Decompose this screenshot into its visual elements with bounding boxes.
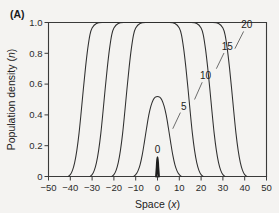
x-tick-label: 30 (218, 182, 229, 193)
population-density-chart: 00.20.40.60.81.0−50−40−30−20−10010203040… (0, 0, 279, 213)
curve-label-20: 20 (241, 19, 253, 30)
curve-label-leader (235, 31, 244, 48)
curve-label-leader (216, 53, 224, 69)
x-tick-label: −50 (40, 182, 56, 193)
curve-label-0: 0 (155, 144, 161, 155)
curve-label-15: 15 (222, 41, 234, 52)
x-tick-label: −40 (62, 182, 78, 193)
x-tick-label: 40 (239, 182, 250, 193)
y-tick-label: 0 (37, 171, 42, 182)
y-axis-title: Population density (n) (5, 49, 17, 151)
x-axis-title: Space (x) (135, 198, 180, 210)
x-tick-label: −10 (128, 182, 144, 193)
curve-label-leader (195, 82, 203, 99)
x-tick-label: −20 (106, 182, 122, 193)
y-tick-label: 0.4 (29, 109, 42, 120)
figure-panel-a: 00.20.40.60.81.0−50−40−30−20−10010203040… (0, 0, 279, 213)
y-tick-label: 0.8 (29, 48, 42, 59)
y-tick-label: 0.6 (29, 78, 42, 89)
x-tick-label: 20 (196, 182, 207, 193)
curve-t0 (156, 157, 159, 176)
curve-label-10: 10 (200, 70, 212, 81)
x-tick-label: 0 (155, 182, 160, 193)
x-tick-label: 50 (261, 182, 272, 193)
panel-label: (A) (10, 8, 25, 20)
curve-label-5: 5 (181, 101, 187, 112)
curve-label-leader (173, 113, 181, 129)
y-tick-label: 1.0 (29, 17, 42, 28)
y-tick-label: 0.2 (29, 140, 42, 151)
x-tick-label: −30 (84, 182, 100, 193)
x-tick-label: 10 (174, 182, 185, 193)
